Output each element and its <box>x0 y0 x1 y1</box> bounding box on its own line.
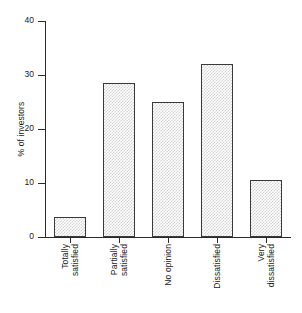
x-axis-label: Dissatisfied <box>193 244 242 310</box>
x-axis-label: Verydissatisfied <box>242 244 291 310</box>
y-axis-tick-label-text: 10 <box>12 178 34 187</box>
x-axis-label-line: Partially <box>109 244 119 310</box>
x-axis-tick <box>217 238 218 243</box>
x-axis-label: Partiallysatisfied <box>94 244 143 310</box>
y-axis-tick-label-text: 30 <box>12 70 34 79</box>
x-axis-label-line: satisfied <box>119 244 129 310</box>
x-axis-label-text: Totallysatisfied <box>60 244 80 310</box>
bar <box>54 217 86 237</box>
y-axis-tick-label: 40 <box>12 16 34 25</box>
y-axis-tick-label: 30 <box>12 70 34 79</box>
y-axis-tick-label: 10 <box>12 178 34 187</box>
y-axis-tick <box>38 183 45 184</box>
y-axis-tick <box>38 75 45 76</box>
y-axis-tick-label-text: 0 <box>12 232 34 241</box>
bar <box>201 64 233 237</box>
y-axis-tick-label-text: 20 <box>12 124 34 133</box>
x-axis-label: Totallysatisfied <box>45 244 94 310</box>
x-axis-tick <box>266 238 267 243</box>
y-axis-tick-label-text: 40 <box>12 16 34 25</box>
x-axis-label-text: No opinion <box>163 244 173 310</box>
y-axis-tick-label: 20 <box>12 124 34 133</box>
y-axis-tick-label: 0 <box>12 232 34 241</box>
bar-chart: % of investors 010203040 Totallysatisfie… <box>0 0 302 313</box>
x-axis-tick <box>168 238 169 243</box>
x-axis-tick <box>70 238 71 243</box>
x-axis-label-text: Verydissatisfied <box>256 244 276 310</box>
x-axis-label: No opinion <box>143 244 192 310</box>
y-axis-tick <box>38 237 45 238</box>
y-axis-tick <box>38 21 45 22</box>
x-axis-label-line: dissatisfied <box>266 244 276 310</box>
x-axis-label-text: Dissatisfied <box>212 244 222 310</box>
x-axis-label-line: Very <box>256 244 266 310</box>
x-axis-label-line: Dissatisfied <box>212 244 222 310</box>
bar <box>250 180 282 237</box>
x-axis-label-line: Totally <box>60 244 70 310</box>
x-axis-tick <box>119 238 120 243</box>
bar <box>152 102 184 237</box>
plot-area <box>45 21 291 237</box>
bar <box>103 83 135 237</box>
x-axis-label-line: No opinion <box>163 244 173 310</box>
x-axis-label-line: satisfied <box>70 244 80 310</box>
x-axis-label-text: Partiallysatisfied <box>109 244 129 310</box>
y-axis-tick <box>38 129 45 130</box>
